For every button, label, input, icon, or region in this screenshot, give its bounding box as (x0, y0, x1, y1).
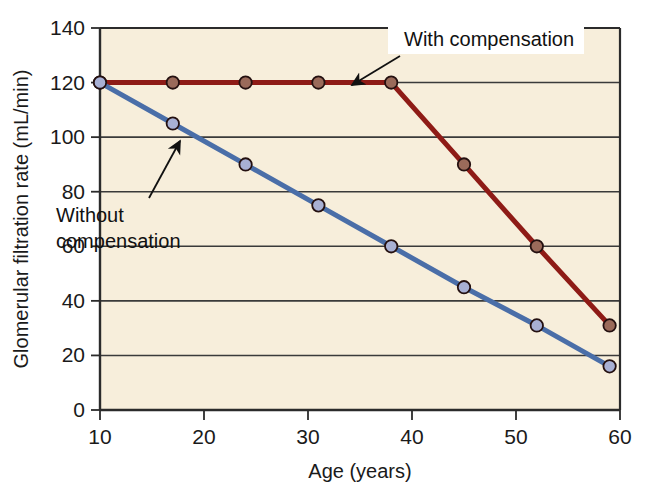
y-tick-label-100: 100 (50, 125, 85, 148)
data-point (603, 319, 615, 331)
without-compensation-label-line1: Without (56, 204, 124, 226)
data-point (385, 76, 397, 88)
y-tick-label-20: 20 (62, 343, 85, 366)
x-tick-label-10: 10 (88, 425, 111, 448)
x-tick-label-60: 60 (608, 425, 631, 448)
data-point (531, 240, 543, 252)
data-point (458, 158, 470, 170)
data-point (603, 360, 615, 372)
y-tick-label-80: 80 (62, 180, 85, 203)
x-axis-ticks (100, 410, 620, 420)
data-point (312, 199, 324, 211)
x-axis-tick-labels: 102030405060 (88, 425, 631, 448)
data-point (239, 76, 251, 88)
gfr-age-line-chart: 020406080100120140 102030405060 With com… (0, 0, 646, 494)
x-axis-title: Age (years) (308, 460, 411, 482)
y-tick-label-0: 0 (73, 398, 85, 421)
data-point (531, 319, 543, 331)
x-tick-label-50: 50 (504, 425, 527, 448)
x-tick-label-30: 30 (296, 425, 319, 448)
y-tick-label-40: 40 (62, 289, 85, 312)
data-point (167, 117, 179, 129)
data-point (239, 158, 251, 170)
chart-container: 020406080100120140 102030405060 With com… (0, 0, 646, 494)
data-point (385, 240, 397, 252)
data-point (458, 281, 470, 293)
y-tick-label-140: 140 (50, 16, 85, 39)
with-compensation-label: With compensation (404, 28, 574, 50)
data-point (94, 76, 106, 88)
data-point (312, 76, 324, 88)
x-tick-label-20: 20 (192, 425, 215, 448)
y-axis-title: Glomerular filtration rate (mL/min) (10, 70, 32, 369)
y-tick-label-120: 120 (50, 71, 85, 94)
without-compensation-label-line2: compensation (56, 230, 181, 252)
data-point (167, 76, 179, 88)
x-tick-label-40: 40 (400, 425, 423, 448)
